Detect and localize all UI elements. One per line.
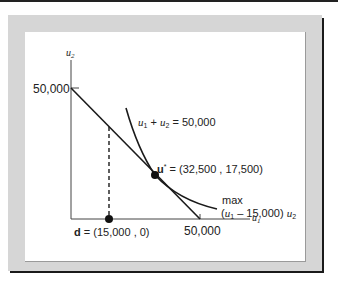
optimum-label: u* = (32,500 , 17,500) xyxy=(157,163,263,175)
objective-label-line1: max xyxy=(222,195,243,206)
disagreement-label: d = (15,000 , 0) xyxy=(74,227,150,238)
frontier-label: u1 + u2 = 50,000 xyxy=(138,117,216,129)
y-axis-label: u2 xyxy=(66,48,75,60)
nash-bargaining-plot xyxy=(0,0,338,291)
x-axis-label: u1 xyxy=(252,213,261,225)
disagreement-point xyxy=(105,215,113,223)
x-intercept-label: 50,000 xyxy=(184,225,221,237)
y-intercept-label: 50,000 xyxy=(33,83,70,95)
frontier-line xyxy=(71,88,200,219)
